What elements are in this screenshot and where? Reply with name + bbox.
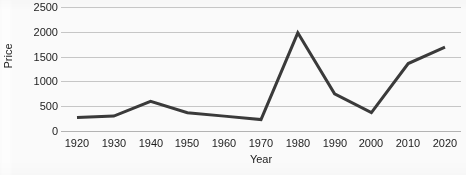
plot-area	[61, 2, 461, 132]
x-axis-label: Year	[61, 153, 461, 166]
y-tick-1500: 1500	[16, 52, 58, 63]
series-line-price	[61, 2, 461, 132]
y-tick-500: 500	[16, 101, 58, 112]
x-tick-2020: 2020	[422, 136, 466, 150]
x-axis-tick-labels: 1920193019401950196019701980199020002010…	[61, 136, 461, 152]
line-chart: Price 05001000150020002500 1920193019401…	[0, 0, 466, 175]
y-axis-tick-labels: 05001000150020002500	[16, 0, 58, 175]
y-tick-0: 0	[16, 126, 58, 137]
y-tick-2000: 2000	[16, 27, 58, 38]
y-tick-1000: 1000	[16, 76, 58, 87]
y-axis-label: Price	[2, 32, 14, 80]
y-tick-2500: 2500	[16, 2, 58, 13]
